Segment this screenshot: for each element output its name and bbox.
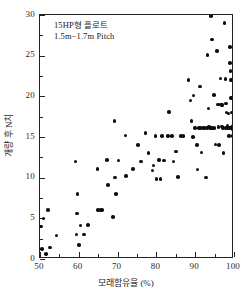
- y-tick-label: 5: [5, 213, 35, 222]
- x-tick-label: 90: [177, 262, 211, 271]
- data-point: [40, 225, 43, 229]
- data-point: [151, 169, 155, 173]
- x-tick-label: 70: [100, 262, 134, 271]
- data-point: [79, 224, 83, 228]
- data-point: [76, 192, 80, 196]
- data-point: [113, 176, 117, 180]
- data-point: [42, 217, 46, 221]
- data-point: [75, 212, 79, 216]
- data-point: [154, 134, 158, 138]
- data-point: [48, 246, 52, 250]
- data-point: [162, 159, 166, 163]
- data-point: [160, 134, 164, 138]
- data-point: [44, 252, 48, 256]
- data-point: [172, 160, 176, 164]
- data-point: [191, 135, 195, 139]
- data-point: [131, 167, 135, 171]
- data-point: [82, 233, 86, 237]
- y-tick-label: 20: [5, 91, 35, 100]
- data-point: [223, 21, 227, 25]
- x-tick-label: 80: [138, 262, 172, 271]
- data-point: [228, 45, 232, 49]
- data-point: [144, 131, 148, 135]
- y-tick-label: 25: [5, 50, 35, 59]
- data-point: [197, 126, 201, 130]
- data-point: [124, 134, 128, 138]
- data-point: [219, 77, 223, 81]
- data-point: [176, 175, 180, 179]
- data-point: [192, 94, 196, 98]
- data-point: [100, 208, 104, 212]
- data-point: [167, 110, 171, 114]
- data-point: [155, 177, 159, 181]
- data-point: [207, 107, 211, 111]
- data-point: [224, 77, 228, 81]
- data-point: [106, 183, 110, 187]
- data-point: [55, 234, 59, 238]
- data-point: [212, 93, 216, 97]
- data-point: [190, 119, 194, 123]
- data-point: [228, 126, 232, 130]
- y-tick-label: 15: [5, 132, 35, 141]
- data-point: [227, 112, 231, 116]
- data-point: [228, 61, 232, 65]
- data-point: [210, 38, 214, 42]
- data-point: [111, 215, 115, 219]
- data-point: [196, 168, 200, 172]
- scatter-chart-figure: 개량 후 N치 15HP형 플로트 1.5m−1.7m Pitch 051015…: [0, 0, 252, 298]
- data-point: [96, 167, 100, 171]
- data-point: [74, 160, 78, 164]
- data-point: [124, 174, 128, 178]
- data-point: [136, 143, 140, 147]
- plot-area: 15HP형 플로트 1.5m−1.7m Pitch: [39, 14, 233, 258]
- data-point: [86, 223, 90, 227]
- data-point: [40, 247, 44, 251]
- data-point: [117, 159, 121, 163]
- data-point: [229, 96, 232, 100]
- data-point: [229, 69, 232, 73]
- data-point: [206, 53, 210, 57]
- x-tick-label: 50: [22, 262, 56, 271]
- data-point: [231, 111, 232, 115]
- data-point: [229, 78, 232, 82]
- data-point: [198, 85, 202, 89]
- data-point: [200, 151, 204, 155]
- y-axis-tick: [40, 259, 45, 260]
- data-point: [209, 15, 213, 18]
- data-point: [215, 49, 219, 53]
- data-point: [139, 160, 143, 164]
- data-point: [174, 150, 178, 154]
- data-point: [217, 143, 221, 147]
- data-point: [195, 143, 199, 147]
- data-point: [170, 134, 174, 138]
- x-tick-label: 100: [216, 262, 250, 271]
- data-point: [205, 126, 209, 130]
- data-point: [75, 233, 79, 237]
- data-point: [222, 151, 226, 155]
- x-axis-tick: [234, 252, 235, 257]
- data-point: [204, 176, 208, 180]
- data-point: [114, 192, 118, 196]
- data-point: [46, 208, 50, 212]
- data-point: [209, 126, 213, 130]
- data-point: [187, 78, 191, 82]
- data-point: [147, 151, 151, 155]
- data-point: [157, 158, 161, 162]
- data-point: [224, 102, 228, 106]
- data-points-layer: [40, 15, 232, 257]
- data-point: [159, 177, 163, 181]
- data-point: [152, 164, 156, 168]
- data-point: [77, 243, 81, 247]
- data-point: [113, 119, 117, 123]
- y-tick-label: 30: [5, 10, 35, 19]
- data-point: [182, 134, 186, 138]
- y-tick-label: 10: [5, 172, 35, 181]
- data-point: [213, 126, 217, 130]
- x-tick-label: 60: [61, 262, 95, 271]
- data-point: [105, 158, 109, 162]
- data-point: [189, 99, 193, 103]
- x-axis-title: 모래함유율 (%): [0, 278, 252, 289]
